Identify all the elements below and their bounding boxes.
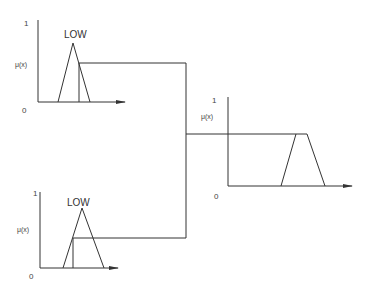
top-term-label: LOW (64, 29, 87, 40)
output-trapezoid (281, 134, 325, 186)
output-y-min-label: 0 (214, 192, 219, 201)
bottom-y-min-label: 0 (29, 272, 34, 281)
bottom-y-max-label: 1 (33, 189, 38, 198)
top-input-chart: 1 μ(x) 0 LOW (15, 19, 125, 115)
output-y-max-label: 1 (212, 96, 217, 105)
output-y-axis-label: μ(x) (201, 113, 213, 121)
fuzzy-diagram: 1 μ(x) 0 LOW 1 μ(x) 0 LOW 1 μ(x) 0 (0, 0, 365, 293)
bottom-y-axis-label: μ(x) (17, 226, 29, 234)
top-low-triangle (58, 43, 90, 102)
min-connector (73, 63, 186, 238)
bottom-term-label: LOW (67, 197, 90, 208)
output-chart: 1 μ(x) 0 (201, 96, 352, 201)
top-y-axis-label: μ(x) (15, 61, 27, 69)
top-y-max-label: 1 (24, 19, 29, 28)
top-y-min-label: 0 (22, 106, 27, 115)
bottom-input-chart: 1 μ(x) 0 LOW (17, 189, 118, 281)
connectors (73, 63, 296, 238)
